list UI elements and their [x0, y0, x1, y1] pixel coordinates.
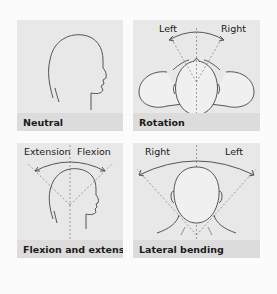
direction-right: Right — [145, 146, 170, 157]
panel-neutral: Neutral — [17, 20, 123, 131]
direction-extension: Extension — [24, 146, 71, 157]
direction-left: Left — [159, 23, 177, 34]
caption-rotation: Rotation — [139, 117, 185, 128]
caption-neutral: Neutral — [23, 117, 63, 128]
caption-flexion-extension: Flexion and extension — [23, 244, 123, 255]
caption-lateral-bending: Lateral bending — [139, 244, 224, 255]
direction-left: Left — [225, 146, 243, 157]
panel-rotation: Left Right Rotation — [133, 20, 260, 131]
caption-band: Neutral — [17, 113, 123, 131]
direction-flexion: Flexion — [77, 146, 111, 157]
caption-band: Lateral bending — [133, 240, 260, 258]
direction-right: Right — [221, 23, 246, 34]
caption-band: Flexion and extension — [17, 240, 123, 258]
panel-flexion-extension: Extension Flexion Flexion and extension — [17, 143, 123, 258]
caption-band: Rotation — [133, 113, 260, 131]
panel-lateral-bending: Right Left Lateral bending — [133, 143, 260, 258]
